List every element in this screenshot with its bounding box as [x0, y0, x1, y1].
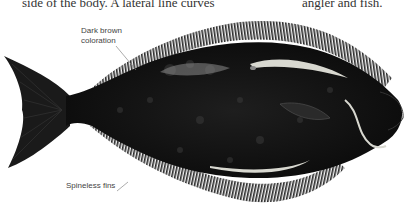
halibut-illustration	[0, 0, 406, 218]
callout-line: Dark brown	[81, 26, 122, 36]
callout-leader-fins	[117, 182, 128, 191]
callout-line: Spineless fins	[66, 181, 115, 191]
callout-dark-brown-coloration: Dark brown coloration	[81, 26, 122, 46]
callout-spineless-fins: Spineless fins	[66, 181, 115, 191]
callout-line: coloration	[81, 36, 122, 46]
eye	[250, 66, 256, 70]
